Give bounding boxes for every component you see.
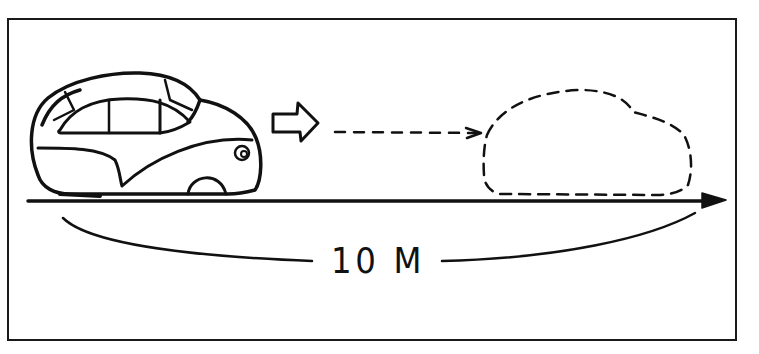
motion-arrow-icon [273,103,318,141]
dashed-path-arrow-icon [335,128,481,138]
distance-label: 10 M [329,238,426,282]
car-icon [31,73,260,196]
ghost-car-icon [484,90,691,195]
car-distance-illustration [0,0,759,354]
